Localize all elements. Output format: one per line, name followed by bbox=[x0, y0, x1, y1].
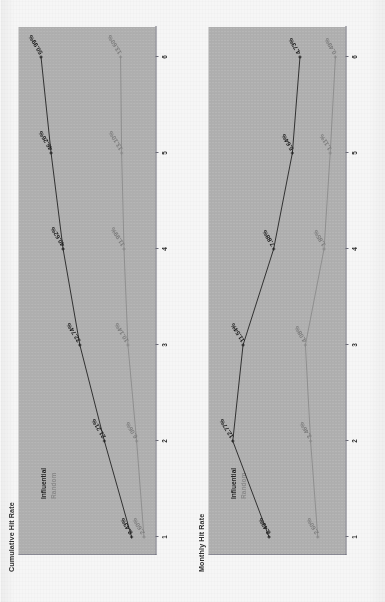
y-axis-monthly bbox=[208, 554, 346, 555]
x-axis-tick bbox=[345, 440, 348, 441]
data-point-marker bbox=[118, 55, 121, 58]
data-point-marker bbox=[122, 247, 125, 250]
data-point-marker bbox=[120, 151, 123, 154]
x-axis-tick bbox=[155, 536, 158, 537]
scanned-page-frame: Cumulative Hit Rate Influential Random 1… bbox=[0, 0, 385, 602]
data-point-marker bbox=[316, 535, 319, 538]
data-point-marker bbox=[333, 55, 336, 58]
series-line-influential bbox=[41, 57, 132, 537]
chart-monthly-hit-rate: Monthly Hit Rate Influential Random 1234… bbox=[194, 0, 376, 602]
x-axis-tick bbox=[345, 536, 348, 537]
y-axis-cumulative bbox=[18, 554, 156, 555]
data-point-marker bbox=[142, 535, 145, 538]
series-lines-monthly bbox=[208, 27, 345, 555]
x-axis-tick bbox=[155, 344, 158, 345]
x-axis-tick bbox=[155, 152, 158, 153]
data-point-marker bbox=[322, 247, 325, 250]
data-point-marker bbox=[135, 439, 138, 442]
series-lines-cumulative bbox=[18, 27, 155, 555]
data-point-marker bbox=[126, 343, 129, 346]
data-point-marker bbox=[328, 151, 331, 154]
x-axis-tick-label: 2 bbox=[160, 439, 167, 443]
x-axis-monthly bbox=[345, 26, 346, 555]
data-point-marker bbox=[267, 535, 270, 538]
series-line-influential bbox=[232, 57, 299, 537]
scanned-page: Cumulative Hit Rate Influential Random 1… bbox=[0, 0, 385, 602]
x-axis-tick bbox=[345, 344, 348, 345]
x-axis-tick bbox=[155, 248, 158, 249]
data-point-marker bbox=[298, 55, 301, 58]
x-axis-tick bbox=[345, 248, 348, 249]
x-axis-tick-label: 2 bbox=[350, 439, 357, 443]
series-line-random bbox=[305, 57, 335, 537]
plot-area-cumulative: Influential Random bbox=[18, 27, 155, 555]
series-line-random bbox=[120, 57, 143, 537]
chart-cumulative-hit-rate: Cumulative Hit Rate Influential Random 1… bbox=[4, 0, 186, 602]
data-point-marker bbox=[39, 55, 42, 58]
data-point-marker bbox=[129, 535, 132, 538]
x-axis-tick bbox=[345, 56, 348, 57]
x-axis-tick-label: 1 bbox=[350, 535, 357, 539]
x-axis-tick-label: 4 bbox=[350, 247, 357, 251]
x-axis-tick-label: 1 bbox=[160, 535, 167, 539]
x-axis-cumulative bbox=[155, 26, 156, 555]
x-axis-tick-label: 3 bbox=[160, 343, 167, 347]
x-axis-tick bbox=[155, 440, 158, 441]
x-axis-tick bbox=[345, 152, 348, 153]
data-point-marker bbox=[49, 151, 52, 154]
plot-area-monthly: Influential Random bbox=[208, 27, 345, 555]
x-axis-tick-label: 6 bbox=[160, 55, 167, 59]
chart-title-monthly: Monthly Hit Rate bbox=[196, 514, 205, 572]
x-axis-tick-label: 3 bbox=[350, 343, 357, 347]
x-axis-tick bbox=[155, 56, 158, 57]
x-axis-tick-label: 5 bbox=[350, 151, 357, 155]
x-axis-tick-label: 5 bbox=[160, 151, 167, 155]
x-axis-tick-label: 4 bbox=[160, 247, 167, 251]
x-axis-tick-label: 6 bbox=[350, 55, 357, 59]
data-point-marker bbox=[290, 151, 293, 154]
data-point-marker bbox=[308, 439, 311, 442]
chart-title-cumulative: Cumulative Hit Rate bbox=[6, 502, 15, 572]
